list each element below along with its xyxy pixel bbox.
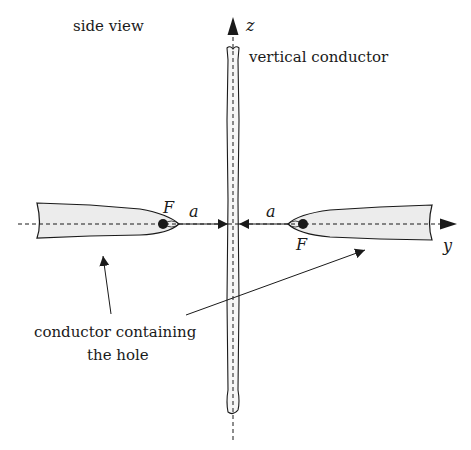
side-view-diagram: side view z vertical conductor F a a F y… [0,0,471,450]
y-axis-label: y [442,236,453,255]
distance-label-left: a [189,202,199,221]
callout-arrow-left [103,256,111,314]
vertical-conductor-label: vertical conductor [248,48,389,66]
distance-label-right: a [266,202,276,221]
callout-label-line1: conductor containing [34,323,197,341]
y-axis-arrow-icon [440,219,457,230]
view-title: side view [73,17,144,35]
focus-label-right: F [295,235,308,254]
callout-arrow-right [186,250,365,315]
focus-point-left [158,219,168,229]
left-conductor [37,203,179,238]
callout-label-line2: the hole [87,346,149,364]
right-conductor [288,205,432,240]
z-axis-arrow-icon [228,17,239,35]
z-axis-label: z [245,16,255,35]
focus-label-left: F [162,198,175,217]
focus-point-right [298,219,308,229]
